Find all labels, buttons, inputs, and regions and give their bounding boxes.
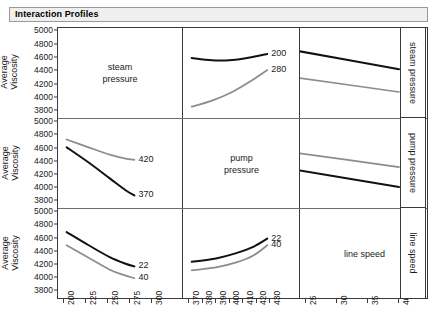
x-tick-label: 35	[371, 296, 380, 305]
series-line-370	[67, 147, 135, 195]
x-tick-mark	[107, 299, 108, 303]
x-tick-label: 410	[246, 291, 255, 305]
x-tick-mark	[305, 299, 306, 303]
y-tick-label: 4200	[34, 260, 53, 269]
y-axis-title-row-3: AverageViscosity	[0, 208, 19, 297]
series-label-40: 40	[138, 272, 148, 282]
x-tick-mark	[85, 299, 86, 303]
x-tick-mark	[242, 299, 243, 303]
x-tick-label: 250	[111, 291, 120, 305]
panel-plot-r2c1: 420370	[58, 119, 182, 208]
x-tick-mark	[129, 299, 130, 303]
x-tick-label: 370	[192, 291, 201, 305]
y-tick-label: 4000	[34, 183, 53, 192]
panel-curves	[58, 119, 182, 208]
x-tick-mark	[202, 299, 203, 303]
y-tick-label: 4400	[34, 247, 53, 256]
series-line-22	[192, 239, 268, 262]
x-axis-col-1: 200225250275300	[57, 299, 181, 330]
y-tick-label: 4000	[34, 93, 53, 102]
series-line-420	[67, 139, 135, 159]
y-tick-label: 4800	[34, 220, 53, 229]
y-tick-label: 4800	[34, 39, 53, 48]
series-label-40: 40	[271, 239, 281, 249]
series-line-280	[192, 70, 268, 107]
x-tick-mark	[63, 299, 64, 303]
x-tick-label: 300	[155, 291, 164, 305]
y-tick-label: 4200	[34, 170, 53, 179]
panel-factor-label: pumppressure	[183, 152, 300, 176]
x-tick-mark	[398, 299, 399, 303]
right-strip-line-speed: line speed	[400, 207, 426, 299]
x-tick-mark	[188, 299, 189, 303]
x-tick-mark	[367, 299, 368, 303]
y-tick-label: 5000	[34, 117, 53, 126]
x-tick-label: 390	[219, 291, 228, 305]
x-tick-mark	[151, 299, 152, 303]
y-tick-label: 4600	[34, 233, 53, 242]
x-tick-mark	[256, 299, 257, 303]
y-tick-label: 4600	[34, 53, 53, 62]
right-strip-label: steam pressure	[408, 41, 418, 103]
panel-curves	[58, 209, 182, 298]
x-tick-label: 400	[232, 291, 241, 305]
y-tick-label: 4400	[34, 157, 53, 166]
x-tick-mark	[229, 299, 230, 303]
x-tick-label: 25	[309, 296, 318, 305]
y-axis-title-row-2: AverageViscosity	[0, 118, 19, 207]
panel-plot-r3c1: 2240	[58, 209, 182, 298]
series-label-370: 370	[138, 189, 153, 199]
panel-factor-label: steampressure	[58, 61, 182, 85]
series-label-280: 280	[271, 64, 286, 74]
right-strip-steam-pressure: steam pressure	[400, 27, 426, 118]
series-line-200	[300, 51, 399, 69]
series-line-22	[67, 232, 135, 266]
page-title: Interaction Profiles	[15, 9, 99, 19]
x-axis-col-2: 370380390400410420430	[182, 299, 299, 330]
panel-plot-r3c2: 2240	[183, 209, 300, 298]
series-line-420	[300, 153, 399, 167]
y-tick-label: 4400	[34, 66, 53, 75]
series-line-40	[67, 245, 135, 278]
right-strip-label: line speed	[408, 232, 418, 273]
y-axis-title-row-1: AverageViscosity	[0, 27, 19, 117]
x-tick-label: 275	[133, 291, 142, 305]
right-strip-pump-pressure: pump pressure	[400, 117, 426, 208]
series-label-200: 200	[271, 48, 286, 58]
y-tick-label: 4800	[34, 130, 53, 139]
x-tick-mark	[215, 299, 216, 303]
x-tick-label: 420	[259, 291, 268, 305]
x-tick-label: 380	[205, 291, 214, 305]
series-label-22: 22	[138, 260, 148, 270]
window-titlebar: Interaction Profiles	[9, 7, 428, 22]
y-tick-label: 5000	[34, 26, 53, 35]
x-tick-mark	[269, 299, 270, 303]
x-axis-col-3: 25303540	[299, 299, 428, 330]
x-tick-label: 200	[67, 291, 76, 305]
y-tick-label: 3800	[34, 196, 53, 205]
panel-plot-r1c2: 200280	[183, 28, 300, 118]
y-tick-label: 5000	[34, 207, 53, 216]
panel-label-r2c2: pumppressure	[183, 119, 300, 208]
series-line-40	[192, 245, 268, 270]
y-tick-label: 3800	[34, 106, 53, 115]
x-tick-label: 30	[340, 296, 349, 305]
series-line-200	[192, 54, 268, 61]
series-line-280	[300, 78, 399, 92]
x-tick-label: 225	[89, 291, 98, 305]
series-line-370	[300, 170, 399, 186]
profile-matrix: steampressure200280200280420370pumppress…	[57, 27, 428, 299]
x-tick-mark	[336, 299, 337, 303]
y-tick-label: 4000	[34, 273, 53, 282]
panel-label-r1c1: steampressure	[58, 28, 182, 118]
y-tick-label: 4600	[34, 143, 53, 152]
y-tick-label: 3800	[34, 286, 53, 295]
panel-curves	[183, 209, 300, 298]
right-strip-label: pump pressure	[408, 132, 418, 192]
series-label-420: 420	[138, 154, 153, 164]
x-tick-label: 430	[273, 291, 282, 305]
y-tick-label: 4200	[34, 79, 53, 88]
interaction-profiles-screen: Interaction Profiles 5000480046004400420…	[0, 0, 437, 330]
